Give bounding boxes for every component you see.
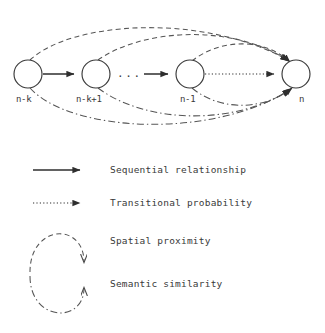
- semantic-edge-n1-to-n: [192, 88, 292, 105]
- legend-label-sequential-relationship: Sequential relationship: [110, 165, 246, 175]
- legend-glyphs: [30, 170, 84, 313]
- legend-label-semantic-similarity: Semantic similarity: [110, 279, 222, 289]
- node-n: [282, 60, 310, 88]
- node-label-n: n: [299, 95, 304, 104]
- node-label-n-k-plus-1: n-k+1: [76, 95, 102, 104]
- node-label-n-1: n-1: [180, 95, 195, 104]
- spatial-proximity-edges: [30, 28, 290, 62]
- semantic-similarity-edges: [30, 88, 292, 124]
- diagram-canvas: n-k n-k+1 n-1 n ... Sequential relations…: [0, 0, 325, 333]
- node-label-n-k: n-k: [16, 95, 31, 104]
- node-n-k: [14, 60, 42, 88]
- node-n-k+1: [82, 60, 110, 88]
- semantic-edge-nk-to-n: [30, 88, 290, 124]
- legend-glyph-semantic: [30, 276, 84, 313]
- legend-label-transitional-probability: Transitional probability: [110, 198, 252, 208]
- legend-glyph-spatial: [30, 234, 84, 272]
- ellipsis-dots: ...: [117, 68, 142, 79]
- legend-label-spatial-proximity: Spatial proximity: [110, 236, 211, 246]
- node-n-1: [176, 60, 204, 88]
